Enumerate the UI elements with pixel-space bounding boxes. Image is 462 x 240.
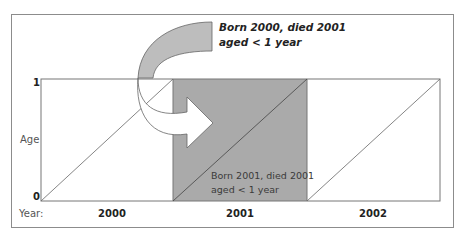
callout-line-2: aged < 1 year xyxy=(219,35,346,50)
age-axis-label: Age xyxy=(20,134,39,145)
cell-note-line-2: aged < 1 year xyxy=(211,183,314,197)
year-label-2001: 2001 xyxy=(226,208,254,219)
callout-text: Born 2000, died 2001 aged < 1 year xyxy=(219,20,346,50)
lifeline-2000 xyxy=(41,79,173,201)
callout-line-1: Born 2000, died 2001 xyxy=(219,20,346,35)
cell-note-line-1: Born 2001, died 2001 xyxy=(211,169,314,183)
age-tick-1: 1 xyxy=(33,77,40,88)
year-label-2002: 2002 xyxy=(359,208,387,219)
curved-arrow-back-icon xyxy=(138,22,212,78)
highlighted-cell-note: Born 2001, died 2001 aged < 1 year xyxy=(211,169,314,197)
lifeline-2002 xyxy=(307,79,440,201)
year-label-2000: 2000 xyxy=(98,208,126,219)
year-axis-label: Year: xyxy=(19,208,43,219)
age-tick-0: 0 xyxy=(33,191,40,202)
